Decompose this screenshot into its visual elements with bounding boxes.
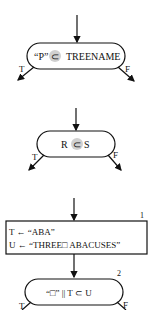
decision1-left: “P” — [34, 51, 48, 62]
decision2-left: R — [61, 139, 68, 150]
true-label-3: T — [19, 301, 25, 310]
false-label-2: F — [113, 150, 118, 160]
subset-symbol: ⊂ — [73, 139, 81, 150]
decision1-right: TREENAME — [66, 51, 120, 62]
false-label-3: F — [123, 300, 128, 310]
decision2-right: S — [84, 139, 90, 150]
false-label-1: F — [125, 64, 130, 74]
flowchart: “P” ⊂ TREENAME T F R ⊂ S T F 1 T ← “ABA”… — [0, 0, 153, 310]
true-label-2: T — [32, 152, 38, 162]
step-number-2: 2 — [117, 269, 121, 278]
assignment-t: T ← “ABA” — [9, 227, 55, 237]
decision3-text: “□” || T ⊂ U — [46, 288, 92, 298]
subset-symbol: ⊂ — [51, 51, 59, 62]
step-number-1: 1 — [140, 211, 144, 220]
true-label-1: T — [19, 64, 25, 74]
assignment-u: U ← “THREE□ ABACUSES” — [9, 240, 120, 250]
